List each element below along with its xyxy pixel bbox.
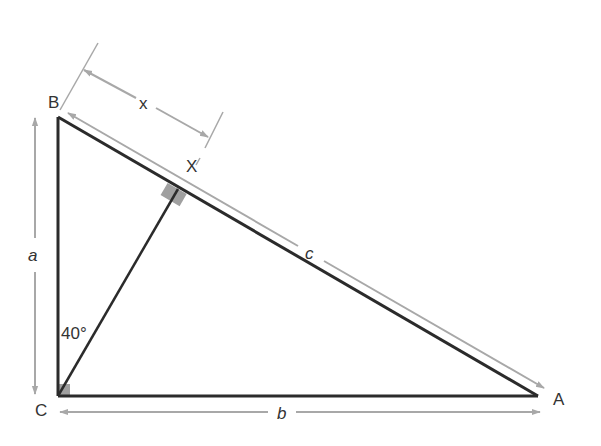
extension-line-x — [205, 112, 223, 148]
dimension-x-right — [156, 108, 208, 137]
triangle-edges — [58, 117, 538, 396]
extension-line-b — [60, 43, 98, 110]
vertex-label-x: X — [186, 157, 197, 176]
side-c-edge — [58, 117, 538, 396]
altitude-cx — [58, 189, 178, 396]
dimension-c-upper — [68, 113, 298, 246]
side-label-c: c — [305, 244, 314, 263]
vertex-label-a: A — [553, 390, 565, 409]
vertex-label-b: B — [48, 93, 59, 112]
dimension-c-lower — [324, 261, 544, 388]
triangle-diagram: B C A X a b c x 40° — [0, 0, 601, 446]
dimension-x-left — [84, 70, 136, 98]
side-label-a: a — [28, 246, 37, 265]
vertex-label-c: C — [35, 401, 47, 420]
segment-label-x: x — [139, 94, 148, 113]
angle-label: 40° — [61, 324, 87, 343]
side-label-b: b — [277, 404, 286, 423]
